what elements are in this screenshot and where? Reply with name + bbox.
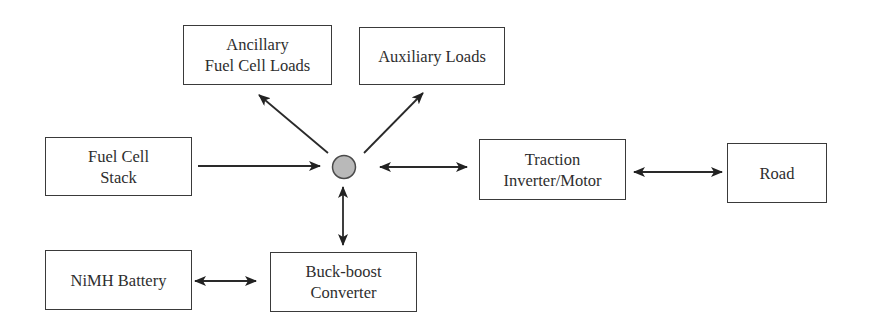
buck-boost-converter-block: Buck-boost Converter <box>270 252 417 312</box>
road-block: Road <box>727 143 827 203</box>
block-label-line1: Traction <box>525 149 580 170</box>
fuel-cell-stack-block: Fuel Cell Stack <box>45 137 192 196</box>
block-label-line1: Road <box>760 163 795 184</box>
block-label-line1: Auxiliary Loads <box>378 46 486 67</box>
nimh-battery-block: NiMH Battery <box>45 250 192 310</box>
block-label-line2: Inverter/Motor <box>503 170 601 191</box>
block-label-line2: Converter <box>311 282 377 303</box>
auxiliary-loads-block: Auxiliary Loads <box>359 27 505 85</box>
traction-inverter-motor-block: Traction Inverter/Motor <box>479 139 626 200</box>
block-label-line1: Fuel Cell <box>88 146 149 167</box>
arrow-hub-to-ancillary <box>259 95 328 153</box>
block-label-line2: Fuel Cell Loads <box>205 55 310 76</box>
block-label-line1: NiMH Battery <box>71 270 167 291</box>
power-bus-hub-node <box>333 156 356 179</box>
ancillary-fuel-cell-loads-block: Ancillary Fuel Cell Loads <box>183 25 332 85</box>
block-label-line2: Stack <box>100 167 137 188</box>
arrow-hub-to-auxiliary <box>364 93 423 153</box>
block-label-line1: Buck-boost <box>305 261 381 282</box>
block-label-line1: Ancillary <box>226 34 288 55</box>
